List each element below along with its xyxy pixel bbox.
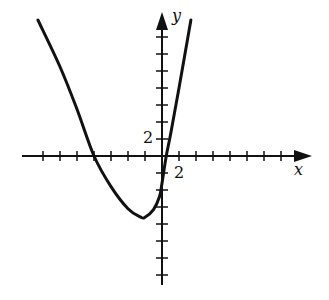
x-axis-label: x: [294, 160, 303, 179]
function-graph: [0, 0, 329, 300]
y-tick-label: 2: [143, 128, 153, 147]
axes: [22, 22, 300, 285]
y-axis-label: y: [172, 6, 181, 25]
y-axis-arrow-icon: [156, 12, 168, 30]
x-tick-label: 2: [174, 163, 184, 182]
function-curve: [38, 20, 191, 218]
